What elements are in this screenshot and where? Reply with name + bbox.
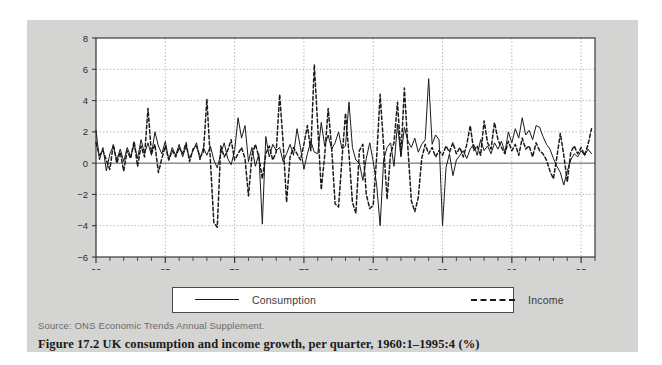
svg-text:−2: −2 [77, 189, 88, 200]
svg-text:60: 60 [91, 266, 102, 270]
svg-text:0: 0 [83, 158, 88, 169]
svg-text:85: 85 [437, 266, 448, 270]
legend-label-consumption: Consumption [252, 294, 316, 306]
chart-legend: Consumption Income [172, 287, 514, 313]
chart-svg: 86420−2−4−66065707580859095 [27, 20, 638, 270]
legend-item-consumption: Consumption [195, 294, 316, 306]
legend-label-income: Income [528, 294, 564, 306]
svg-text:4: 4 [83, 95, 88, 106]
legend-swatch-dashed-icon [471, 295, 515, 305]
figure-panel: 86420−2−4−66065707580859095 Consumption … [27, 20, 638, 352]
figure-caption: Figure 17.2 UK consumption and income gr… [38, 337, 480, 352]
svg-text:8: 8 [83, 33, 88, 44]
svg-text:80: 80 [368, 266, 379, 270]
svg-text:−4: −4 [77, 220, 88, 231]
svg-text:95: 95 [576, 266, 587, 270]
svg-text:6: 6 [83, 64, 88, 75]
svg-text:90: 90 [507, 266, 518, 270]
source-note: Source: ONS Economic Trends Annual Suppl… [38, 320, 265, 331]
svg-text:65: 65 [160, 266, 171, 270]
chart-plot-area: 86420−2−4−66065707580859095 [27, 20, 638, 270]
svg-text:75: 75 [299, 266, 310, 270]
legend-swatch-solid-icon [195, 295, 239, 305]
legend-item-income: Income [471, 294, 564, 306]
svg-text:2: 2 [83, 126, 88, 137]
svg-text:−6: −6 [77, 252, 88, 263]
svg-text:70: 70 [229, 266, 240, 270]
